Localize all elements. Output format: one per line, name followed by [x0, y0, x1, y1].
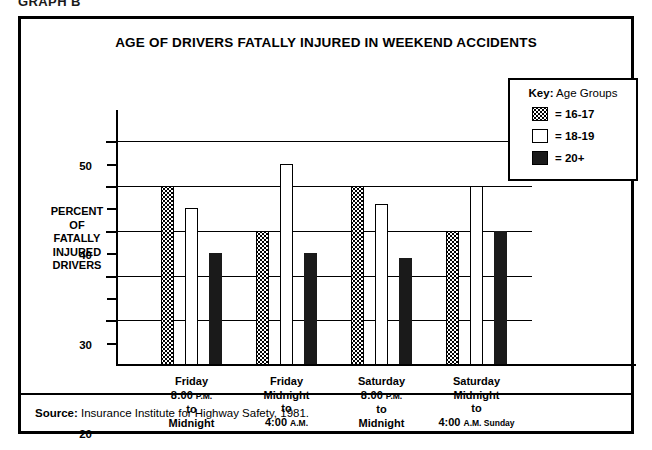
bar — [304, 253, 317, 365]
graph-caption: GRAPH B — [18, 0, 81, 9]
y-tick-label: 40 — [79, 249, 92, 261]
bar — [161, 186, 174, 365]
bar — [351, 186, 364, 365]
y-axis-caption: PERCENT OF FATALLY INJURED DRIVERS — [39, 205, 115, 273]
source-divider — [21, 393, 631, 395]
y-axis-caption-line: DRIVERS — [39, 259, 115, 273]
gridline — [117, 141, 532, 142]
y-tick-label: 20 — [79, 428, 92, 440]
legend-item-18-19: = 18-19 — [510, 129, 636, 143]
legend-swatch-stipple-icon — [532, 107, 548, 121]
source-text: Insurance Institute for Highway Safety, … — [78, 407, 309, 419]
bar — [209, 253, 222, 365]
y-tick-label: 50 — [79, 160, 92, 172]
bar — [185, 208, 198, 365]
legend-title-key: Key: — [529, 87, 554, 99]
bar — [494, 231, 507, 365]
bar — [256, 231, 269, 365]
legend-title-rest: Age Groups — [554, 87, 618, 99]
x-axis-line — [116, 364, 636, 366]
bar — [470, 186, 483, 365]
y-tick-label: 30 — [79, 339, 92, 351]
y-axis-caption-line: FATALLY — [39, 232, 115, 246]
figure-frame: AGE OF DRIVERS FATALLY INJURED IN WEEKEN… — [18, 16, 634, 434]
y-axis-caption-line: PERCENT — [39, 205, 115, 219]
bar — [446, 231, 459, 365]
legend-item-20plus: = 20+ — [510, 151, 636, 165]
chart-title: AGE OF DRIVERS FATALLY INJURED IN WEEKEN… — [21, 35, 631, 50]
source-label: Source: — [35, 407, 78, 419]
bar — [399, 258, 412, 365]
legend-title: Key: Age Groups — [510, 87, 636, 99]
y-axis-caption-line: INJURED — [39, 246, 115, 260]
legend-label: = 18-19 — [555, 130, 594, 142]
category-label: SaturdayMidnightto4:00 A.M. Sunday — [417, 375, 537, 430]
legend-swatch-black-icon — [532, 151, 548, 165]
legend-item-16-17: = 16-17 — [510, 107, 636, 121]
legend: Key: Age Groups = 16-17 = 18-19 = 20+ — [508, 78, 638, 181]
legend-swatch-white-icon — [532, 129, 548, 143]
y-axis-line — [116, 110, 118, 365]
legend-label: = 20+ — [555, 152, 584, 164]
y-axis-caption-line: OF — [39, 219, 115, 233]
source-line: Source: Insurance Institute for Highway … — [35, 407, 309, 419]
legend-label: = 16-17 — [555, 108, 594, 120]
plot-area: 1020304050 — [117, 119, 532, 365]
bar — [280, 164, 293, 365]
bar — [375, 204, 388, 365]
